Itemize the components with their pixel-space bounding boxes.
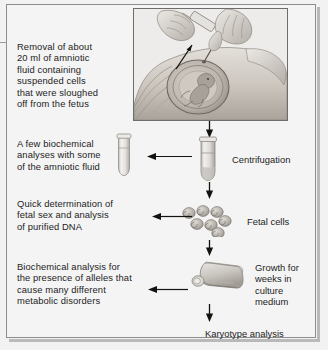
step-label-centrifugation: Centrifugation xyxy=(232,154,290,165)
frame-shadow-bottom xyxy=(9,339,320,342)
step-label-karyotype: Karyotype analysis xyxy=(205,328,284,339)
figure-canvas: Removal of about 20 ml of amniotic fluid… xyxy=(0,0,328,350)
step-label-fetal-cells: Fetal cells xyxy=(247,216,289,227)
arrow-tube-to-small-tube xyxy=(147,152,192,161)
arrow-cells-to-flask xyxy=(205,240,214,256)
step-label-biochemical-alleles: Biochemical analysis for the presence of… xyxy=(17,261,167,307)
centrifuge-test-tube xyxy=(197,136,219,182)
culture-flask xyxy=(186,259,246,297)
step-label-removal: Removal of about 20 ml of amniotic fluid… xyxy=(17,41,135,109)
arrow-flask-to-karyotype xyxy=(205,304,214,322)
frame-shadow-right xyxy=(317,7,320,340)
step-label-biochemical-few: A few biochemical analyses with some of … xyxy=(17,138,139,172)
arrow-tube-to-cells xyxy=(205,182,214,199)
amniocentesis-illustration xyxy=(133,8,288,121)
left-edge-rule xyxy=(0,42,7,43)
step-label-quick-determination: Quick determination of fetal sex and ana… xyxy=(17,198,147,232)
step-label-growth: Growth for weeks in culture medium xyxy=(255,262,317,308)
arrow-cells-to-dna xyxy=(152,212,192,221)
